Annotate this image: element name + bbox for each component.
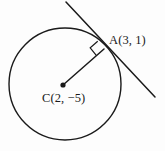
right-angle-marker — [90, 41, 98, 55]
point-a-label: A(3, 1) — [109, 34, 146, 47]
point-c-label: C(2, −5) — [42, 92, 85, 105]
radius-line — [63, 49, 104, 85]
center-point-dot — [60, 82, 65, 87]
geometry-figure: A(3, 1) C(2, −5) — [0, 0, 165, 151]
tangent-line — [66, 2, 155, 97]
diagram-canvas — [0, 0, 165, 151]
